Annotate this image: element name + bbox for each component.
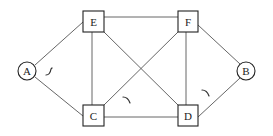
node-a-label: A [23,65,31,77]
edge-a-c [35,77,83,116]
node-c: C [83,105,104,126]
edge-d-b [198,78,240,117]
node-d: D [178,105,198,126]
node-d-label: D [184,110,192,122]
node-c-label: C [90,110,97,122]
edges [35,17,240,117]
edge-f-b [198,25,240,64]
edge-a-e [35,22,83,65]
node-f-label: F [185,16,191,28]
network-diagram: A B C D E F [0,0,273,136]
curved-arrow-icon-d [202,90,209,96]
node-e: E [83,11,104,32]
node-e-label: E [90,16,97,28]
node-b: B [237,62,255,80]
node-b-label: B [242,65,249,77]
curved-arrow-icon-c [123,97,130,103]
node-a: A [18,62,36,80]
curved-arrow-icon-a [46,68,52,75]
node-f: F [178,11,198,32]
